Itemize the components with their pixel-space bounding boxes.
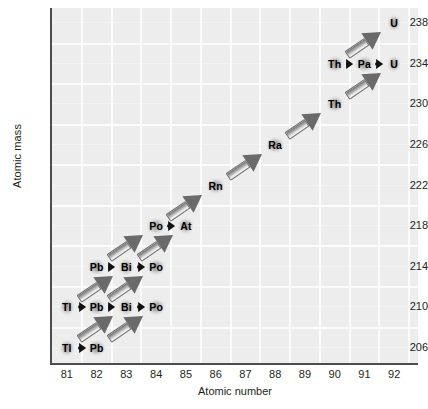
gridline-horizontal [52,185,418,186]
beta-decay-arrow [346,59,354,69]
x-tick-label: 83 [111,368,141,380]
nuclide-label: Rn [205,178,225,194]
beta-decay-arrow [78,302,86,312]
nuclide-label: Tl [59,299,75,315]
beta-decay-arrow [78,343,86,353]
x-tick-label: 91 [349,368,379,380]
nuclide-label: Th [325,56,344,72]
decay-series-chart: Atomic mass Atomic number UThPaUThRaRnPo… [0,0,428,409]
nuclide-label: U [387,15,401,31]
gridline-vertical [230,8,232,363]
gridline-vertical [259,8,261,363]
y-tick-label: 218 [384,219,428,231]
gridline-horizontal [52,347,418,348]
gridline-horizontal [52,144,418,145]
x-tick-label: 87 [230,368,260,380]
gridline-horizontal [52,205,418,207]
x-tick-label: 88 [260,368,290,380]
x-tick-label: 90 [320,368,350,380]
y-axis-line [50,8,52,365]
x-tick-label: 82 [82,368,112,380]
arrow-head [168,221,175,231]
x-tick-label: 89 [290,368,320,380]
gridline-vertical [289,8,291,363]
gridline-horizontal [52,225,418,226]
y-axis-title: Atomic mass [11,106,23,206]
nuclide-label: Pb [87,259,107,275]
arrow-head [79,302,86,312]
gridline-horizontal [52,103,418,104]
nuclide-label: Tl [59,340,75,356]
nuclide-label: At [177,218,194,234]
nuclide-label: Po [146,218,166,234]
arrow-head [138,302,145,312]
beta-decay-arrow [137,302,145,312]
beta-decay-arrow [375,59,383,69]
arrow-head [108,302,115,312]
beta-decay-arrow [108,262,116,272]
arrow-head [138,262,145,272]
arrow-head [108,262,115,272]
y-tick-label: 214 [384,260,428,272]
nuclide-label: Pb [87,340,107,356]
x-tick-label: 84 [141,368,171,380]
gridline-vertical [319,8,321,363]
x-tick-label: 81 [52,368,82,380]
gridline-horizontal [52,22,418,23]
x-axis-line [50,363,418,365]
nuclide-label: Pb [87,299,107,315]
beta-decay-arrow [137,262,145,272]
nuclide-label: Bi [118,299,135,315]
x-axis-title: Atomic number [52,385,418,397]
nuclide-label: Po [146,299,166,315]
y-tick-label: 222 [384,179,428,191]
y-tick-label: 206 [384,341,428,353]
plot-area: UThPaUThRaRnPoAtPbBiPoTlPbBiPoTlPb [52,8,418,363]
nuclide-label: Th [325,96,344,112]
arrow-head [346,59,353,69]
nuclide-label: Po [146,259,166,275]
nuclide-label: Bi [118,259,135,275]
beta-decay-arrow [108,302,116,312]
gridline-vertical [170,8,172,363]
nuclide-label: Ra [265,137,285,153]
x-tick-label: 86 [201,368,231,380]
gridline-horizontal [52,124,418,126]
x-tick-label: 85 [171,368,201,380]
y-tick-label: 226 [384,138,428,150]
beta-decay-arrow [167,221,175,231]
x-tick-label: 92 [379,368,409,380]
arrow-head [376,59,383,69]
nuclide-label: Pa [355,56,374,72]
nuclide-label: U [387,56,401,72]
y-tick-label: 230 [384,97,428,109]
arrow-head [79,343,86,353]
gridline-vertical [200,8,202,363]
y-tick-label: 210 [384,300,428,312]
